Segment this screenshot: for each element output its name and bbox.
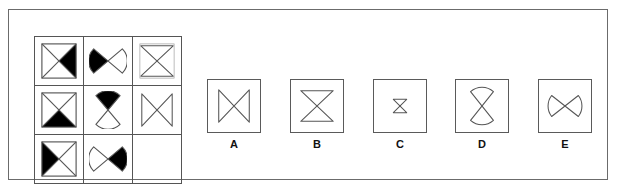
option-a[interactable]: A xyxy=(206,79,262,151)
option-b-label: B xyxy=(289,137,345,151)
matrix-cell-row3-col1 xyxy=(35,135,84,184)
figure-hourglass-vertical xyxy=(296,85,338,127)
option-c-label: C xyxy=(372,137,428,151)
matrix-cell-row2-col1 xyxy=(35,86,84,135)
matrix-cell-row1-col3 xyxy=(133,37,182,86)
puzzle-frame: A B C xyxy=(8,9,608,180)
figure-square-hourglass-vertical xyxy=(138,42,176,80)
answer-options: A B C xyxy=(206,79,602,153)
figure-hourglass-vertical-curved xyxy=(461,85,503,127)
matrix-grid xyxy=(34,36,182,184)
option-c[interactable]: C xyxy=(372,79,428,151)
matrix-cell-row3-col3-blank[interactable] xyxy=(133,135,182,184)
figure-bowtie-horizontal xyxy=(213,85,255,127)
option-e[interactable]: E xyxy=(537,79,593,151)
option-e-box[interactable] xyxy=(538,79,592,133)
matrix-cell-row2-col2 xyxy=(84,86,133,135)
option-a-box[interactable] xyxy=(207,79,261,133)
figure-bowtie-horizontal-curved xyxy=(544,85,586,127)
option-b[interactable]: B xyxy=(289,79,345,151)
option-d-label: D xyxy=(454,137,510,151)
figure-circle-bowtie-left-shaded xyxy=(89,42,127,80)
option-c-box[interactable] xyxy=(373,79,427,133)
option-d[interactable]: D xyxy=(454,79,510,151)
matrix-cell-row1-col2 xyxy=(84,37,133,86)
matrix-cell-row3-col2 xyxy=(84,135,133,184)
option-b-box[interactable] xyxy=(290,79,344,133)
matrix-cell-row2-col3 xyxy=(133,86,182,135)
option-d-box[interactable] xyxy=(455,79,509,133)
figure-square-x-bottom-shaded xyxy=(40,91,78,129)
matrix-cell-row1-col1 xyxy=(35,37,84,86)
option-a-label: A xyxy=(206,137,262,151)
figure-square-x-right-shaded xyxy=(40,42,78,80)
figure-square-x-left-shaded xyxy=(40,140,78,178)
option-e-label: E xyxy=(537,137,593,151)
figure-hourglass-vertical-small xyxy=(379,85,421,127)
figure-circle-bowtie-right-shaded xyxy=(89,140,127,178)
figure-circle-bowtie-top-shaded xyxy=(89,91,127,129)
puzzle-page: A B C xyxy=(0,0,617,189)
figure-square-bowtie-horizontal xyxy=(138,91,176,129)
